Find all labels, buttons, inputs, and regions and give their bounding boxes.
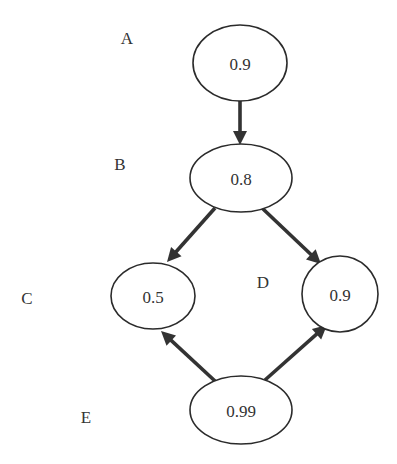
edge-b-to-d xyxy=(262,208,312,256)
node-e: 0.99 E xyxy=(81,376,292,444)
node-a-label: A xyxy=(121,29,134,48)
node-b: 0.8 B xyxy=(114,144,292,212)
node-b-value: 0.8 xyxy=(230,170,251,189)
node-c: 0.5 C xyxy=(21,263,195,329)
node-e-label: E xyxy=(81,408,91,427)
node-d-value: 0.9 xyxy=(329,286,350,305)
edge-b-to-c xyxy=(175,208,215,253)
node-d-label: D xyxy=(257,273,269,292)
arrowhead-a-to-b-icon xyxy=(233,131,247,145)
node-a-value: 0.9 xyxy=(229,55,250,74)
node-e-value: 0.99 xyxy=(226,402,256,421)
node-b-label: B xyxy=(114,155,125,174)
bayesian-network-diagram: 0.9 A 0.8 B 0.5 C 0.9 D 0.99 E xyxy=(0,0,397,464)
node-c-label: C xyxy=(21,289,32,308)
node-c-value: 0.5 xyxy=(142,288,163,307)
edges xyxy=(161,101,327,381)
edge-e-to-c xyxy=(170,339,215,381)
node-a: 0.9 A xyxy=(121,25,287,101)
edge-e-to-d xyxy=(265,333,318,380)
node-d: 0.9 D xyxy=(257,256,378,332)
